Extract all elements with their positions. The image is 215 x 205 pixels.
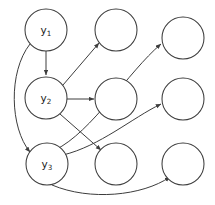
node-r1c3[interactable]	[162, 17, 204, 59]
node-circle-r3c3[interactable]	[162, 143, 204, 185]
node-r2c2[interactable]	[95, 78, 137, 120]
node-layer: y1y2y3	[25, 9, 204, 185]
edge-y2-to-r1c2	[63, 43, 99, 85]
node-y2[interactable]: y2	[25, 77, 67, 119]
node-circle-r3c2[interactable]	[95, 143, 137, 185]
node-circle-r2c3[interactable]	[162, 78, 204, 120]
node-y1[interactable]: y1	[25, 9, 67, 51]
graph-canvas: y1y2y3	[0, 0, 215, 205]
node-r3c2[interactable]	[95, 143, 137, 185]
node-y3[interactable]: y3	[26, 143, 68, 185]
node-r2c3[interactable]	[162, 78, 204, 120]
node-label-subscript-y1: 1	[47, 28, 52, 37]
graph-diagram: y1y2y3	[0, 0, 215, 205]
node-circle-r1c3[interactable]	[162, 17, 204, 59]
node-r1c2[interactable]	[95, 9, 137, 51]
node-label-subscript-y3: 3	[48, 162, 53, 171]
node-label-subscript-y2: 2	[47, 96, 52, 105]
node-circle-r2c2[interactable]	[95, 78, 137, 120]
node-r3c3[interactable]	[162, 143, 204, 185]
node-circle-r1c2[interactable]	[95, 9, 137, 51]
